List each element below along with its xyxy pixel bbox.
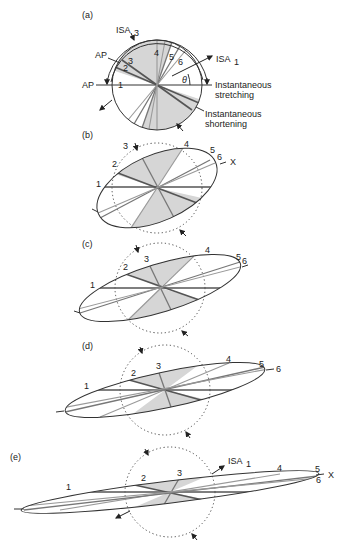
line-label-5: 5 bbox=[210, 145, 215, 155]
line-label-5: 5 bbox=[259, 359, 264, 369]
panel-c: (c) 1 2 3 4 5 6 bbox=[73, 239, 248, 336]
theta-arc bbox=[188, 74, 190, 85]
theta-label: θ bbox=[182, 75, 187, 85]
line-label-3: 3 bbox=[156, 361, 161, 371]
right-tick bbox=[266, 369, 274, 370]
line-label-4: 4 bbox=[184, 139, 189, 149]
line-label-1: 1 bbox=[90, 280, 95, 290]
line-label-4: 4 bbox=[226, 354, 231, 364]
line-label-6: 6 bbox=[316, 475, 321, 485]
line-label-3: 3 bbox=[123, 141, 128, 151]
line-label-5: 5 bbox=[236, 252, 241, 262]
isa1-label: ISA 1 bbox=[228, 456, 251, 469]
bottom-arrow bbox=[182, 331, 188, 336]
top-arrow bbox=[136, 245, 138, 252]
left-tick bbox=[56, 411, 64, 412]
shortening-label-1: Instantaneous bbox=[205, 109, 262, 119]
line-label-2: 2 bbox=[123, 262, 128, 272]
svg-text:1: 1 bbox=[234, 57, 239, 67]
shortening-label-2: shortening bbox=[205, 119, 247, 129]
isa3-label: ISA 3 bbox=[116, 25, 139, 38]
x-axis-label: X bbox=[230, 157, 236, 167]
isa1-label: ISA 1 bbox=[216, 54, 239, 67]
svg-text:ISA: ISA bbox=[116, 25, 131, 35]
bottom-arrow bbox=[192, 534, 197, 540]
line-label-2: 2 bbox=[141, 473, 146, 483]
line-label-4: 4 bbox=[277, 463, 282, 473]
ap-upper-label: AP bbox=[95, 50, 107, 60]
line-label-6: 6 bbox=[276, 364, 281, 374]
svg-text:3: 3 bbox=[134, 28, 139, 38]
panel-e: (e) ISA 1 1 2 3 4 5 6 X bbox=[10, 447, 334, 540]
shortening-left-arrow bbox=[100, 100, 112, 110]
isa1-arrow bbox=[212, 466, 224, 474]
bottom-left-arrow bbox=[116, 511, 130, 518]
panel-b: (b) 1 2 3 4 5 6 X bbox=[82, 130, 236, 244]
svg-text:ISA: ISA bbox=[228, 456, 243, 466]
line-label-6: 6 bbox=[178, 57, 183, 67]
panel-c-label: (c) bbox=[82, 239, 93, 249]
panel-d-label: (d) bbox=[82, 341, 93, 351]
line-label-4: 4 bbox=[154, 48, 159, 58]
line-label-3: 3 bbox=[128, 56, 133, 66]
bottom-arrow bbox=[180, 230, 186, 236]
bottom-arrow bbox=[186, 432, 190, 438]
panel-e-marker-lines bbox=[20, 474, 320, 510]
svg-text:1: 1 bbox=[246, 459, 251, 469]
line-label-1: 1 bbox=[118, 80, 123, 90]
ap-left-label: AP bbox=[82, 80, 94, 90]
svg-text:ISA: ISA bbox=[216, 54, 231, 64]
line-label-4: 4 bbox=[205, 245, 210, 255]
stretching-label-1: Instantaneous bbox=[215, 80, 272, 90]
top-arrow bbox=[135, 143, 137, 150]
line-label-6: 6 bbox=[217, 152, 222, 162]
line-label-3: 3 bbox=[144, 254, 149, 264]
shortening-bottom-arrow bbox=[177, 124, 183, 131]
shortening-leader bbox=[196, 107, 204, 111]
panel-e-label: (e) bbox=[10, 452, 21, 462]
right-tick bbox=[220, 162, 226, 164]
line-label-2: 2 bbox=[131, 368, 136, 378]
line-label-2: 2 bbox=[112, 159, 117, 169]
line-label-5: 5 bbox=[315, 464, 320, 474]
line-label-1: 1 bbox=[84, 381, 89, 391]
line-label-1: 1 bbox=[96, 179, 101, 189]
panel-d: (d) 1 2 3 4 5 6 bbox=[56, 341, 281, 438]
panel-a-label: (a) bbox=[82, 10, 93, 20]
panel-a: (a) θ bbox=[82, 10, 272, 131]
line-label-5: 5 bbox=[169, 52, 174, 62]
line-label-1: 1 bbox=[66, 482, 71, 492]
line-label-6: 6 bbox=[242, 256, 247, 266]
x-axis-label: X bbox=[328, 470, 334, 480]
stretching-label-2: stretching bbox=[215, 90, 254, 100]
panel-b-label: (b) bbox=[82, 130, 93, 140]
progressive-deformation-figure: (a) θ bbox=[0, 0, 347, 551]
line-label-3: 3 bbox=[177, 468, 182, 478]
